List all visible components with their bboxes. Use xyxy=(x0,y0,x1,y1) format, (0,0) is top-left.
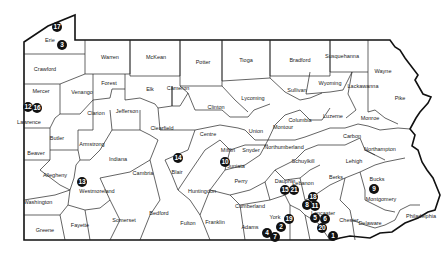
county-label-allegheny: Allegheny xyxy=(43,172,67,178)
county-label-adams: Adams xyxy=(241,224,258,230)
county-label-montgomery: Montgomery xyxy=(366,196,397,202)
county-label-elk: Elk xyxy=(146,86,154,92)
county-label-blair: Blair xyxy=(171,169,182,175)
county-label-jefferson: Jefferson xyxy=(116,108,139,114)
county-label-bucks: Bucks xyxy=(370,176,385,182)
marker-10: 10 xyxy=(220,157,230,167)
marker-5: 5 xyxy=(310,213,320,223)
county-label-huntingdon: Huntingdon xyxy=(188,188,216,194)
marker-13: 13 xyxy=(77,177,87,187)
county-label-chester: Chester xyxy=(339,217,358,223)
county-label-somerset: Somerset xyxy=(112,217,136,223)
county-label-pike: Pike xyxy=(395,95,406,101)
county-label-perry: Perry xyxy=(234,178,247,184)
county-label-lycoming: Lycoming xyxy=(241,95,264,101)
county-label-butler: Butler xyxy=(50,135,64,141)
county-label-mckean: McKean xyxy=(146,54,166,60)
county-label-beaver: Beaver xyxy=(27,150,44,156)
county-label-franklin: Franklin xyxy=(205,219,225,225)
county-label-clarion: Clarion xyxy=(87,110,104,116)
county-label-bedford: Bedford xyxy=(149,210,168,216)
county-label-erie: Erie xyxy=(45,37,55,43)
marker-21: 21 xyxy=(289,185,299,195)
county-label-mercer: Mercer xyxy=(32,88,49,94)
marker-20: 20 xyxy=(317,223,327,233)
county-label-crawford: Crawford xyxy=(34,66,56,72)
county-label-venango: Venango xyxy=(71,89,93,95)
county-label-potter: Potter xyxy=(196,59,211,65)
county-label-washington: Washington xyxy=(24,199,53,205)
county-label-sullivan: Sullivan xyxy=(287,87,306,93)
county-label-lehigh: Lehigh xyxy=(346,158,363,164)
county-label-northumberland: Northumberland xyxy=(264,144,303,150)
marker-2: 2 xyxy=(276,222,286,232)
county-label-northampton: Northampton xyxy=(364,146,396,152)
county-label-lawrence: Lawrence xyxy=(17,119,41,125)
county-label-tioga: Tioga xyxy=(239,57,253,63)
county-label-schuylkill: Schuylkill xyxy=(292,158,315,164)
county-label-mifflin: Mifflin xyxy=(221,147,235,153)
county-label-forest: Forest xyxy=(101,80,117,86)
county-label-warren: Warren xyxy=(101,54,119,60)
county-label-delaware: Delaware xyxy=(358,220,381,226)
county-label-montour: Montour xyxy=(273,124,293,130)
county-label-union: Union xyxy=(249,128,263,134)
county-label-greene: Greene xyxy=(36,227,54,233)
county-label-monroe: Monroe xyxy=(361,115,380,121)
marker-16: 16 xyxy=(32,103,42,113)
county-label-fayette: Fayette xyxy=(71,222,89,228)
county-label-bradford: Bradford xyxy=(289,57,310,63)
county-label-philadelphia: Philadelphia xyxy=(406,213,436,219)
county-label-york: York xyxy=(270,214,281,220)
marker-3: 3 xyxy=(57,40,67,50)
pennsylvania-county-map: ErieWarrenMcKeanPotterTiogaBradfordSusqu… xyxy=(0,0,444,257)
county-label-cameron: Cameron xyxy=(167,85,190,91)
marker-1: 1 xyxy=(328,231,338,241)
county-label-columbia: Columbia xyxy=(288,117,311,123)
county-label-armstrong: Armstrong xyxy=(79,141,104,147)
county-label-cambria: Cambria xyxy=(133,170,154,176)
county-label-wayne: Wayne xyxy=(375,68,392,74)
marker-11: 11 xyxy=(310,201,320,211)
county-label-centre: Centre xyxy=(200,131,217,137)
marker-9: 9 xyxy=(369,184,379,194)
county-label-indiana: Indiana xyxy=(109,156,127,162)
marker-14: 14 xyxy=(173,153,183,163)
county-label-carbon: Carbon xyxy=(343,133,361,139)
county-label-wyoming: Wyoming xyxy=(319,80,342,86)
county-label-luzerne: Luzerne xyxy=(323,113,343,119)
county-label-juniata: Juniata xyxy=(227,163,245,169)
county-label-berks: Berks xyxy=(329,174,343,180)
county-label-lackawanna: Lackawanna xyxy=(348,83,379,89)
marker-19: 19 xyxy=(284,214,294,224)
marker-17: 17 xyxy=(52,22,62,32)
county-label-susquehanna: Susquehanna xyxy=(325,53,359,59)
county-label-westmoreland: Westmoreland xyxy=(79,188,114,194)
county-label-clearfield: Clearfield xyxy=(150,125,173,131)
county-label-snyder: Snyder xyxy=(242,147,259,153)
county-label-cumberland: Cumberland xyxy=(235,203,265,209)
marker-7: 7 xyxy=(270,232,280,242)
county-label-clinton: Clinton xyxy=(207,104,224,110)
county-label-fulton: Fulton xyxy=(180,220,195,226)
